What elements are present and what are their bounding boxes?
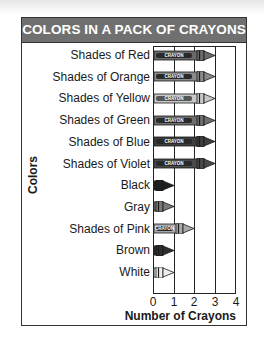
crayon-icon bbox=[154, 180, 175, 191]
category-label: Shades of Violet bbox=[63, 156, 150, 172]
crayon-bar bbox=[154, 245, 175, 256]
gridline-1 bbox=[174, 47, 175, 293]
crayon-bar: CRAYON bbox=[154, 71, 216, 82]
plot-grid bbox=[153, 46, 236, 294]
crayon-icon: CRAYON bbox=[154, 71, 216, 82]
crayon-icon: CRAYON bbox=[154, 93, 216, 104]
x-tick-3: 3 bbox=[209, 295, 221, 309]
category-label: White bbox=[119, 264, 150, 280]
y-axis-label: Colors bbox=[26, 156, 40, 194]
svg-text:CRAYON: CRAYON bbox=[155, 226, 174, 231]
category-label: Brown bbox=[116, 242, 150, 258]
category-label: Shades of Green bbox=[59, 112, 150, 128]
crayon-icon: CRAYON bbox=[154, 158, 216, 169]
svg-text:CRAYON: CRAYON bbox=[164, 53, 183, 58]
crayon-bar: CRAYON bbox=[154, 50, 216, 61]
top-shadow bbox=[0, 0, 264, 14]
x-tick-1: 1 bbox=[168, 295, 180, 309]
crayon-icon: CRAYON bbox=[154, 50, 216, 61]
crayon-bar: CRAYON bbox=[154, 115, 216, 126]
crayon-bar: CRAYON bbox=[154, 158, 216, 169]
crayon-icon bbox=[154, 201, 175, 212]
category-label: Shades of Yellow bbox=[59, 90, 150, 106]
crayon-bar: CRAYON bbox=[154, 136, 216, 147]
svg-text:CRAYON: CRAYON bbox=[164, 96, 183, 101]
category-label: Shades of Blue bbox=[69, 134, 150, 150]
crayon-icon bbox=[154, 267, 175, 278]
crayon-icon: CRAYON bbox=[154, 223, 195, 234]
x-axis-label: Number of Crayons bbox=[125, 309, 236, 323]
crayon-bar: CRAYON bbox=[154, 223, 195, 234]
category-label: Shades of Orange bbox=[53, 69, 150, 85]
x-tick-2: 2 bbox=[188, 295, 200, 309]
svg-text:CRAYON: CRAYON bbox=[164, 140, 183, 145]
category-label: Gray bbox=[124, 199, 150, 215]
crayon-bar bbox=[154, 201, 175, 212]
svg-text:CRAYON: CRAYON bbox=[164, 74, 183, 79]
svg-text:CRAYON: CRAYON bbox=[164, 161, 183, 166]
category-label: Black bbox=[121, 177, 150, 193]
crayon-icon bbox=[154, 245, 175, 256]
crayon-bar: CRAYON bbox=[154, 93, 216, 104]
chart-title: COLORS IN A PACK OF CRAYONS bbox=[22, 18, 246, 43]
crayon-icon: CRAYON bbox=[154, 115, 216, 126]
category-label: Shades of Pink bbox=[69, 221, 150, 237]
crayon-icon: CRAYON bbox=[154, 136, 216, 147]
svg-text:CRAYON: CRAYON bbox=[164, 118, 183, 123]
crayon-bar bbox=[154, 267, 175, 278]
x-tick-4: 4 bbox=[230, 295, 242, 309]
gridline-2 bbox=[194, 47, 195, 293]
chart-card: COLORS IN A PACK OF CRAYONS Colors Shade… bbox=[21, 17, 247, 326]
gridline-3 bbox=[215, 47, 216, 293]
category-label: Shades of Red bbox=[71, 47, 150, 63]
crayon-bar bbox=[154, 180, 175, 191]
x-tick-0: 0 bbox=[147, 295, 159, 309]
